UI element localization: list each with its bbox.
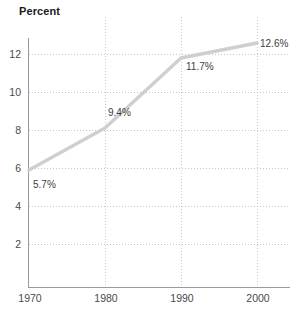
y-tick-label-2: 2 xyxy=(0,238,21,250)
data-label-1990: 11.7% xyxy=(186,61,214,72)
data-label-1980: 9.4% xyxy=(108,107,131,118)
x-tick-label-2000: 2000 xyxy=(246,292,269,304)
data-label-1970: 5.7% xyxy=(33,179,56,190)
data-label-2000: 12.6% xyxy=(260,38,288,49)
y-tick-label-8: 8 xyxy=(0,124,21,136)
y-tick-label-10: 10 xyxy=(0,86,21,98)
plot-area xyxy=(0,0,298,312)
y-tick-label-12: 12 xyxy=(0,48,21,60)
y-tick-label-6: 6 xyxy=(0,162,21,174)
y-tick-label-4: 4 xyxy=(0,200,21,212)
x-tick-label-1970: 1970 xyxy=(18,292,41,304)
data-line-series-percent xyxy=(29,43,257,170)
x-tick-label-1980: 1980 xyxy=(94,292,117,304)
x-tick-label-1990: 1990 xyxy=(170,292,193,304)
line-chart: Percent 12 10 8 6 4 2 1970 1980 1990 200… xyxy=(0,0,298,312)
